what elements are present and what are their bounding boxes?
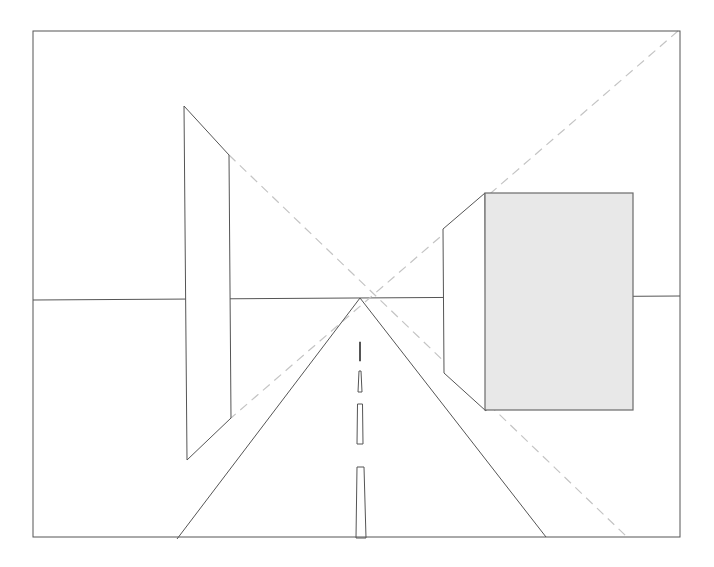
road-center-dashes: [356, 342, 366, 538]
road-dash: [356, 467, 366, 538]
road-dash: [357, 404, 363, 444]
road-dash: [358, 371, 362, 392]
road-dash: [360, 342, 361, 361]
left-panel-plane: [184, 106, 231, 460]
box-front-face: [485, 193, 633, 410]
perspective-diagram: [0, 0, 714, 567]
box-side-face: [443, 193, 486, 411]
